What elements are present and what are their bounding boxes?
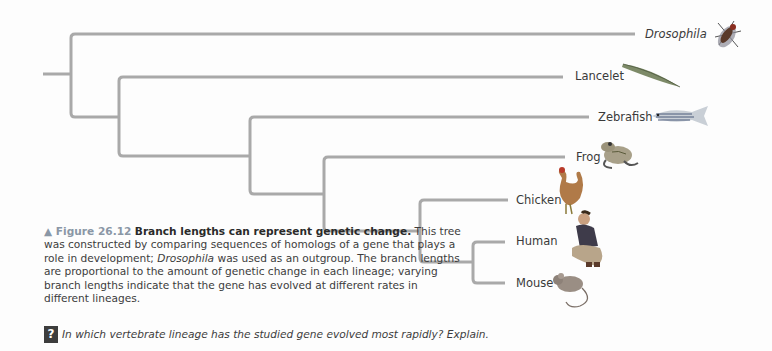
taxon-label-zebrafish: Zebrafish — [598, 110, 653, 124]
figure-number: ▲ Figure 26.12 — [44, 225, 131, 237]
taxon-label-lancelet: Lancelet — [575, 69, 624, 83]
taxon-label-drosophila: Drosophila — [645, 27, 707, 41]
taxon-label-mouse: Mouse — [516, 276, 553, 290]
taxon-label-frog: Frog — [576, 150, 601, 164]
mouse-icon — [553, 273, 588, 307]
branch-human-mouse — [473, 242, 505, 283]
chicken-icon — [559, 167, 583, 214]
caption-italic-term: Drosophila — [157, 252, 214, 264]
frog-icon — [601, 142, 638, 168]
figure-question: In which vertebrate lineage has the stud… — [62, 328, 489, 340]
figure-title: Branch lengths can represent genetic cha… — [135, 225, 411, 237]
fruit-fly-icon — [714, 21, 741, 50]
taxon-label-human: Human — [516, 234, 557, 248]
figure-caption: ▲ Figure 26.12 Branch lengths can repres… — [44, 225, 464, 305]
taxon-label-chicken: Chicken — [516, 193, 561, 207]
zebrafish-icon — [652, 106, 708, 126]
question-icon: ? — [44, 326, 58, 343]
lancelet-icon — [622, 64, 680, 87]
human-icon — [572, 212, 602, 267]
